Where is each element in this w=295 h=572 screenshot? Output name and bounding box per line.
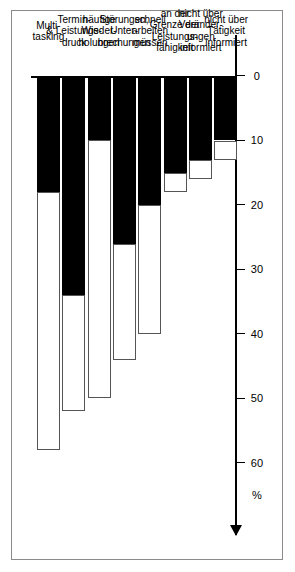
bar-segment-light — [214, 141, 237, 160]
bar-segment-light — [113, 244, 136, 360]
bar-segment-light — [138, 205, 161, 334]
bar-segment-light — [37, 192, 60, 450]
bar-segment-dark — [62, 76, 85, 295]
axis-unit-text: % — [242, 489, 272, 501]
bar-segment-dark — [164, 76, 187, 173]
axis-tick-label: 50 — [242, 393, 272, 405]
bar-segment-dark — [37, 76, 60, 192]
bar-row — [164, 35, 187, 535]
bar-segment-dark — [113, 76, 136, 244]
bar-segment-dark — [88, 76, 111, 141]
category-label: nicht über Tätigkeit informiert — [184, 14, 268, 48]
bar-series-group — [31, 35, 235, 535]
bar-row — [88, 35, 111, 535]
bar-segment-dark — [214, 76, 237, 141]
bar-segment-dark — [189, 76, 212, 160]
axis-tick-label: 60 — [242, 457, 272, 469]
bar-segment-dark — [138, 76, 161, 205]
bar-row — [189, 35, 212, 535]
axis-tick-label: 30 — [242, 264, 272, 276]
axis-tick-label: 20 — [242, 199, 272, 211]
bar-row — [138, 35, 161, 535]
bar-row — [113, 35, 136, 535]
bar-segment-light — [62, 295, 85, 411]
bar-segment-light — [88, 141, 111, 399]
bar-row — [37, 35, 60, 535]
axis-tick-label: 40 — [242, 328, 272, 340]
bar-segment-light — [164, 173, 187, 192]
bar-segment-light — [189, 160, 212, 179]
figure-frame: 0102030405060 % Multi- taskingTermin- & … — [11, 10, 283, 560]
chart-plot-area: 0102030405060 % Multi- taskingTermin- & … — [31, 35, 263, 535]
bar-row — [214, 35, 237, 535]
bar-row — [62, 35, 85, 535]
axis-tick-label: 0 — [242, 70, 272, 82]
axis-tick-label: 10 — [242, 135, 272, 147]
